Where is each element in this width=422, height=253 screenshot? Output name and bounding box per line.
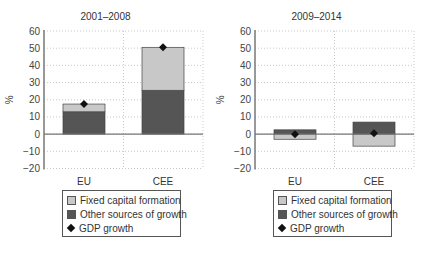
legend-item-other: Other sources of growth: [67, 207, 176, 221]
bar-segment: [142, 90, 184, 134]
y-tick-label: −20: [234, 163, 251, 174]
legend-swatch-dark-icon: [67, 210, 76, 219]
x-tick-label: CEE: [364, 176, 385, 187]
legend: Fixed capital formation Other sources of…: [62, 190, 181, 237]
bar-segment: [63, 112, 105, 134]
legend-item-fixed: Fixed capital formation: [278, 193, 387, 207]
legend-item-gdp: GDP growth: [67, 221, 176, 235]
legend-label: Fixed capital formation: [80, 195, 181, 206]
chart-panel-left: 2001–2008 6050403020100−10−20%EUCEE Fixe…: [0, 0, 211, 253]
y-tick-label: −10: [23, 146, 40, 157]
diamond-icon: [67, 224, 75, 232]
y-tick-label: 40: [29, 60, 41, 71]
y-tick-label: 40: [240, 60, 252, 71]
y-tick-label: 10: [29, 111, 41, 122]
legend-item-fixed: Fixed capital formation: [67, 193, 176, 207]
legend-label: Fixed capital formation: [291, 195, 392, 206]
y-tick-label: 20: [29, 94, 41, 105]
legend: Fixed capital formation Other sources of…: [273, 190, 392, 237]
y-tick-label: 60: [240, 26, 252, 37]
y-tick-label: 10: [240, 111, 252, 122]
y-tick-label: −20: [23, 163, 40, 174]
y-axis-label: %: [4, 95, 15, 104]
x-tick-label: CEE: [153, 176, 174, 187]
legend-swatch-light-icon: [278, 196, 287, 205]
y-tick-label: 50: [29, 43, 41, 54]
bar-segment: [142, 47, 184, 90]
chart-plot: 6050403020100−10−20%EUCEE: [211, 0, 422, 190]
legend-swatch-dark-icon: [278, 210, 287, 219]
y-tick-label: 30: [240, 77, 252, 88]
legend-label: Other sources of growth: [291, 209, 398, 220]
diamond-icon: [278, 224, 286, 232]
legend-swatch-light-icon: [67, 196, 76, 205]
legend-item-gdp: GDP growth: [278, 221, 387, 235]
chart-plot: 6050403020100−10−20%EUCEE: [0, 0, 211, 190]
chart-panel-right: 2009–2014 6050403020100−10−20%EUCEE Fixe…: [211, 0, 422, 253]
y-tick-label: 0: [34, 129, 40, 140]
y-tick-label: 50: [240, 43, 252, 54]
legend-label: GDP growth: [290, 223, 344, 234]
legend-item-other: Other sources of growth: [278, 207, 387, 221]
legend-label: GDP growth: [79, 223, 133, 234]
x-tick-label: EU: [77, 176, 91, 187]
legend-label: Other sources of growth: [80, 209, 187, 220]
y-tick-label: −10: [234, 146, 251, 157]
x-tick-label: EU: [288, 176, 302, 187]
y-tick-label: 0: [245, 129, 251, 140]
y-tick-label: 30: [29, 77, 41, 88]
y-axis-label: %: [215, 95, 226, 104]
y-tick-label: 20: [240, 94, 252, 105]
y-tick-label: 60: [29, 26, 41, 37]
